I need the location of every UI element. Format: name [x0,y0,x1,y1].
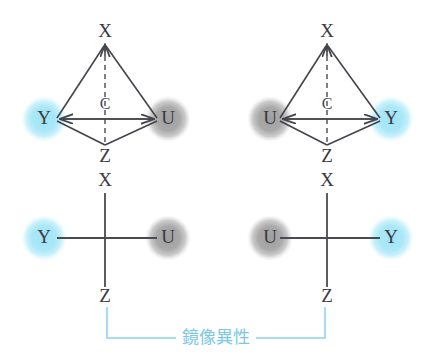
bond-u-z-left [105,121,157,145]
figure-canvas: X C Z Y U X C Z U Y [0,0,427,364]
label-x-tetra-left: X [98,20,112,41]
label-c-tetra-left: C [100,95,111,112]
tetrahedron-right: X C Z U Y [247,20,414,166]
bond-x-y-left [57,46,104,118]
label-x-tetra-right: X [320,20,334,41]
label-x-fischer-left: X [98,169,112,190]
label-z-fischer-left: Z [99,285,111,306]
label-u-tetra-left: U [161,107,175,128]
fischer-right: X Z U Y [247,169,414,306]
label-y-fischer-right: Y [384,226,398,247]
mirror-isomerism-label: 鏡像異性 [182,327,250,347]
label-y-tetra-left: Y [37,107,51,128]
label-z-fischer-right: Z [321,285,333,306]
mirror-isomerism-annotation: 鏡像異性 [107,307,325,347]
label-z-tetra-left: Z [99,145,111,166]
label-y-tetra-right: Y [384,107,398,128]
bracket-right [256,307,325,338]
tetrahedron-left: X C Z Y U [21,20,191,166]
label-u-fischer-left: U [161,226,175,247]
chirality-diagram: X C Z Y U X C Z U Y [0,0,427,364]
fischer-left: X Z Y U [21,169,191,306]
label-z-tetra-right: Z [321,145,333,166]
label-u-fischer-right: U [263,226,277,247]
bond-y-z-right [327,121,380,145]
label-u-tetra-right: U [263,107,277,128]
label-y-fischer-left: Y [37,226,51,247]
label-c-tetra-right: C [322,95,333,112]
label-x-fischer-right: X [320,169,334,190]
bond-x-u-left [106,46,157,118]
bracket-left [107,307,176,338]
bond-x-u-right [280,46,326,118]
bond-x-y-right [328,46,380,118]
bond-y-z-left [57,121,105,145]
